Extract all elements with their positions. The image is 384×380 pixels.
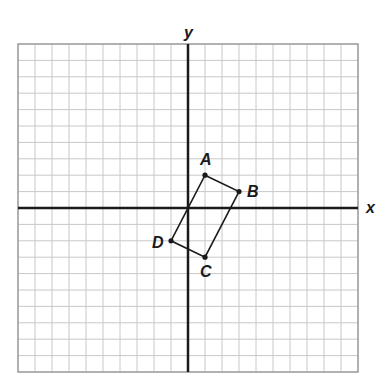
coordinate-plane: x y ABCD: [0, 0, 384, 380]
vertex-label-d: D: [152, 234, 164, 251]
vertex-point-a: [202, 173, 207, 178]
vertex-label-c: C: [200, 263, 212, 280]
vertex-point-b: [236, 189, 241, 194]
vertex-label-a: A: [199, 151, 212, 168]
x-axis-label: x: [365, 199, 376, 216]
vertex-point-c: [202, 255, 207, 260]
y-axis-label: y: [183, 24, 194, 41]
vertex-point-d: [168, 238, 173, 243]
vertex-label-b: B: [247, 183, 259, 200]
